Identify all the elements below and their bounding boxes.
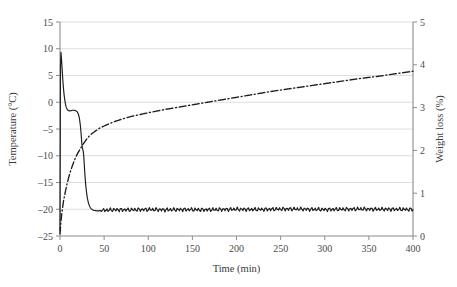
x-axis-title: Time (min) bbox=[213, 263, 261, 275]
y-tick-label: –10 bbox=[37, 150, 53, 161]
x-axis-tick-labels: 050100150200250300350400 bbox=[58, 243, 421, 254]
x-tick-label: 350 bbox=[361, 243, 376, 254]
x-tick-label: 200 bbox=[229, 243, 244, 254]
chart-figure: 050100150200250300350400 –25–20–15–10–50… bbox=[0, 0, 457, 287]
axis-tickmarks bbox=[56, 22, 417, 240]
secondary-y-tick-label: 4 bbox=[420, 59, 425, 70]
secondary-y-tick-label: 1 bbox=[420, 188, 425, 199]
y-tick-label: 10 bbox=[43, 43, 53, 54]
y-axis-tick-labels: –25–20–15–10–5051015 bbox=[37, 17, 53, 242]
x-tick-label: 250 bbox=[273, 243, 288, 254]
y-tick-label: –15 bbox=[37, 177, 53, 188]
x-tick-label: 0 bbox=[58, 243, 63, 254]
gridlines bbox=[60, 22, 413, 209]
y-tick-label: 15 bbox=[43, 17, 53, 28]
y-tick-label: 5 bbox=[48, 70, 53, 81]
secondary-y-tick-label: 0 bbox=[420, 231, 425, 242]
x-tick-label: 50 bbox=[99, 243, 109, 254]
secondary-y-axis-tick-labels: 012345 bbox=[420, 17, 425, 242]
x-tick-label: 400 bbox=[406, 243, 421, 254]
y-tick-label: –25 bbox=[37, 231, 53, 242]
secondary-y-tick-label: 5 bbox=[420, 17, 425, 28]
x-tick-label: 100 bbox=[141, 243, 156, 254]
y-tick-label: –5 bbox=[42, 124, 53, 135]
x-tick-label: 300 bbox=[317, 243, 332, 254]
secondary-y-tick-label: 3 bbox=[420, 102, 425, 113]
y-tick-label: –20 bbox=[37, 204, 53, 215]
y-axis-title: Temperature (°C) bbox=[7, 92, 19, 166]
dual-axis-line-chart: 050100150200250300350400 –25–20–15–10–50… bbox=[0, 0, 457, 287]
secondary-y-tick-label: 2 bbox=[420, 145, 425, 156]
y-tick-label: 0 bbox=[48, 97, 53, 108]
secondary-y-axis-title: Weight loss (%) bbox=[434, 95, 446, 163]
x-tick-label: 150 bbox=[185, 243, 200, 254]
data-series-layer bbox=[60, 52, 413, 234]
